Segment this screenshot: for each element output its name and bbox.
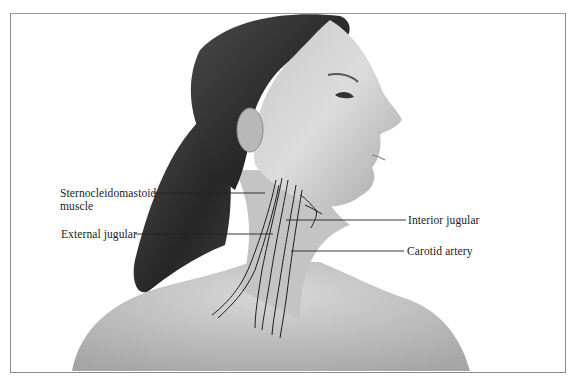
ear — [237, 108, 263, 152]
label-sternocleidomastoid-line1: Sternocleidomastoid — [60, 187, 156, 200]
label-sternocleidomastoid: Sternocleidomastoid muscle — [60, 187, 156, 213]
label-external-jugular: External jugular — [61, 228, 137, 241]
label-carotid-artery: Carotid artery — [407, 245, 473, 258]
label-sternocleidomastoid-line2: muscle — [60, 200, 156, 213]
label-interior-jugular: Interior jugular — [408, 214, 480, 227]
